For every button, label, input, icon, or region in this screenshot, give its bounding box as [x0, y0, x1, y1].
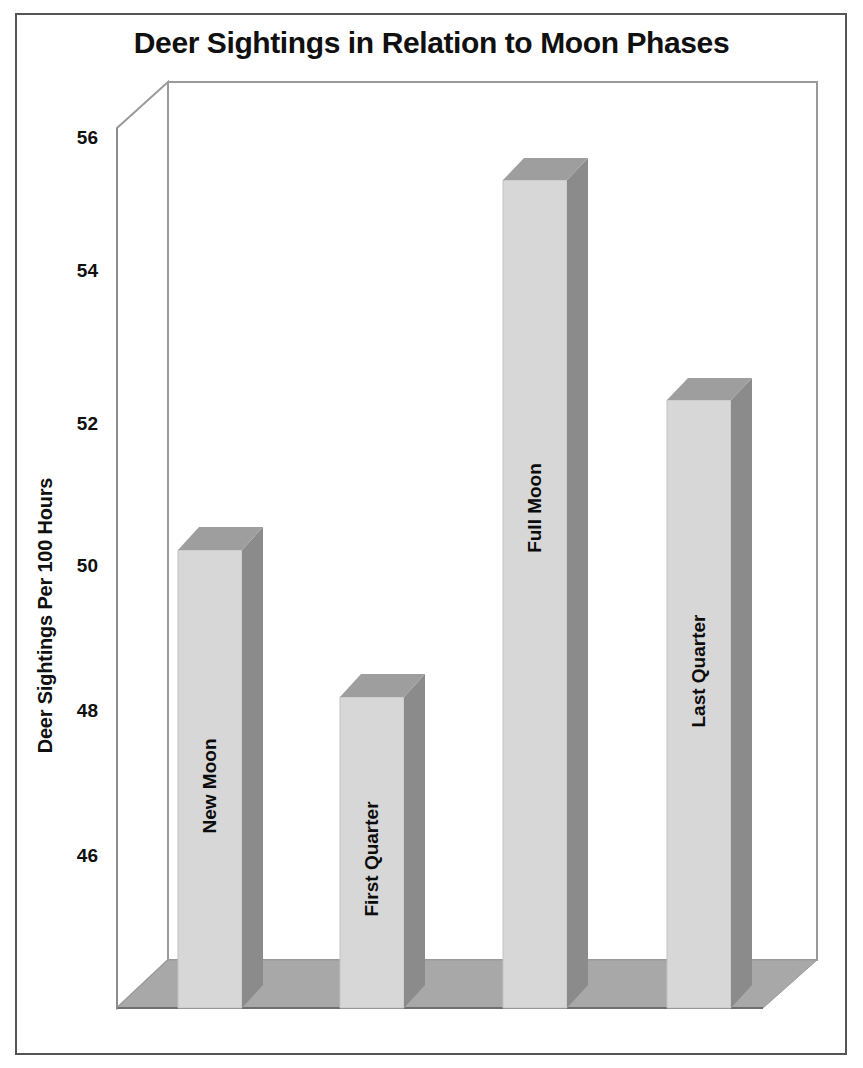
bar-side-face[interactable] [731, 378, 752, 1008]
chart-container: Deer Sightings in Relation to Moon Phase… [0, 0, 863, 1068]
bar-last-quarter-shape[interactable] [0, 0, 863, 1068]
bar-front-face[interactable] [667, 400, 731, 1008]
